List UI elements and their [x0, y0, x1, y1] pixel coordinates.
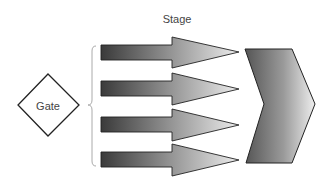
activity-arrow-2 [101, 73, 239, 105]
activity-arrow-1 [101, 37, 239, 68]
gate-label: Gate [36, 100, 60, 112]
activity-arrows [101, 37, 239, 176]
stage-chevron [245, 49, 315, 163]
activity-arrow-4 [101, 144, 239, 176]
activity-arrow-3 [101, 109, 239, 141]
curly-brace [88, 46, 96, 166]
stage-gate-diagram [0, 0, 330, 184]
stage-title: Stage [163, 13, 192, 25]
